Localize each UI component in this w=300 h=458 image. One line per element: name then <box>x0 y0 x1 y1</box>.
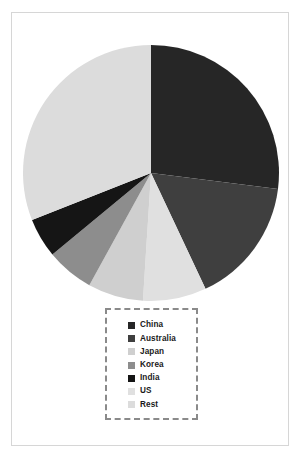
legend-item[interactable]: US <box>128 385 196 398</box>
legend-item-label: US <box>140 387 152 395</box>
legend-list: ChinaAustraliaJapanKoreaIndiaUSRest <box>107 319 196 411</box>
legend-swatch-icon <box>128 375 135 382</box>
pie-slice[interactable] <box>151 45 279 189</box>
legend-item-label: India <box>140 374 160 382</box>
legend-item[interactable]: Japan <box>128 345 196 358</box>
legend-item[interactable]: Australia <box>128 332 196 345</box>
legend-swatch-icon <box>128 335 135 342</box>
legend-item-label: Korea <box>140 361 164 369</box>
pie-chart-area <box>12 13 290 313</box>
legend-swatch-icon <box>128 362 135 369</box>
chart-legend: ChinaAustraliaJapanKoreaIndiaUSRest <box>105 308 198 420</box>
legend-item[interactable]: China <box>128 319 196 332</box>
legend-item-label: Australia <box>140 335 176 343</box>
legend-item[interactable]: India <box>128 372 196 385</box>
legend-item-label: Japan <box>140 348 164 356</box>
legend-item[interactable]: Rest <box>128 398 196 411</box>
pie-chart-svg <box>12 13 290 313</box>
legend-item-label: China <box>140 321 163 329</box>
legend-item-label: Rest <box>140 401 158 409</box>
chart-frame: ChinaAustraliaJapanKoreaIndiaUSRest <box>11 12 289 446</box>
legend-item[interactable]: Korea <box>128 359 196 372</box>
legend-swatch-icon <box>128 322 135 329</box>
legend-swatch-icon <box>128 401 135 408</box>
legend-swatch-icon <box>128 348 135 355</box>
legend-swatch-icon <box>128 388 135 395</box>
